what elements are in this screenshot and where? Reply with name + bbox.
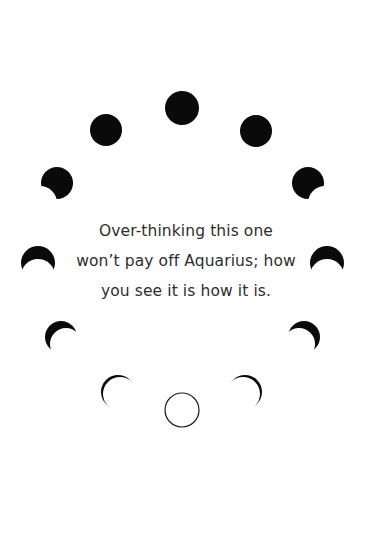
first-quarter-moon-icon (292, 167, 324, 199)
last-quarter-moon-icon (41, 167, 73, 199)
message-line-2: won’t pay off Aquarius; how (36, 246, 336, 276)
thin-waxing-crescent-moon-icon (288, 321, 320, 353)
full-moon-icon (165, 91, 199, 125)
waxing-gibbous-moon-icon (240, 115, 272, 147)
message-line-3: you see it is how it is. (36, 276, 336, 306)
message-line-1: Over-thinking this one (36, 216, 336, 246)
thin-waning-crescent-moon-icon (45, 321, 77, 353)
new-moon-icon (165, 393, 199, 427)
thinnest-waxing-crescent-moon-icon (228, 375, 262, 409)
horoscope-card: Over-thinking this one won’t pay off Aqu… (0, 0, 372, 548)
horoscope-message: Over-thinking this one won’t pay off Aqu… (36, 216, 336, 306)
thinnest-waning-crescent-moon-icon (101, 375, 135, 409)
waning-gibbous-moon-icon (90, 114, 122, 146)
